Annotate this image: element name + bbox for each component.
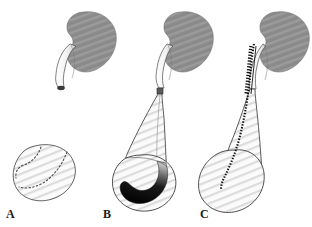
panel-label-c: C: [200, 207, 209, 221]
medical-illustration-figure: A B: [0, 0, 312, 227]
uvj-junction-b: [157, 88, 163, 94]
panel-label-b: B: [103, 207, 111, 221]
panel-label-a: A: [6, 207, 15, 221]
bladder-b: [112, 155, 175, 211]
figure-canvas: A B: [0, 0, 312, 227]
ureter-tip-a: [57, 86, 64, 90]
